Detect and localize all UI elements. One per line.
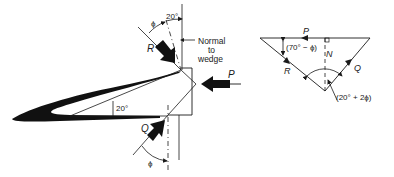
wedge-force-diagram: 20° R Q P ϕ [0, 0, 394, 177]
triangle-R-label: R [284, 66, 291, 76]
triangle-N-label: N [326, 49, 333, 59]
force-Q-arrow [147, 120, 165, 141]
phi-top-label: ϕ [151, 19, 156, 28]
wedge-body [12, 71, 181, 122]
force-P-arrow [201, 76, 241, 92]
triangle-Q-label: Q [354, 63, 361, 73]
force-R-arrow [155, 40, 175, 63]
triangle-P-label: P [303, 26, 309, 36]
angle-top-label: 20° [166, 12, 178, 21]
phi-bottom-label: ϕ [148, 159, 153, 168]
normal-label-line3: wedge [197, 54, 223, 64]
wedge-angle-label: 20° [116, 104, 128, 113]
force-R-label: R [147, 43, 154, 54]
angle-left-label: (70° − ϕ) [286, 43, 317, 52]
force-P-label: P [228, 69, 235, 80]
force-Q-label: Q [141, 123, 149, 134]
wedge-figure: 20° R Q P ϕ [12, 4, 241, 172]
force-triangle: P R Q N (70° − ϕ) (20° + 2ϕ) [260, 26, 372, 102]
angle-bottom-label: (20° + 2ϕ) [336, 93, 372, 102]
